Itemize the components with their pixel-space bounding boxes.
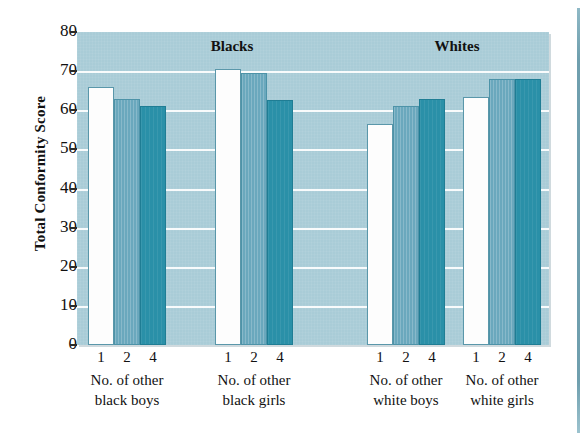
y-tick-mark [70,148,77,150]
bar [88,87,114,345]
panel-label-blacks: Blacks [172,38,292,55]
bar [241,73,267,345]
group-caption-line1: No. of other [437,370,567,390]
bar [367,124,393,345]
group-caption: No. of otherblack girls [189,370,319,410]
y-tick-mark [70,109,77,111]
group-caption: No. of otherwhite girls [437,370,567,410]
y-tick-label: 10 [15,295,77,315]
y-tick-label: 70 [15,60,77,80]
plot-area: BlacksWhites [77,32,549,345]
y-tick-label: 60 [15,99,77,119]
x-tick-label: 1 [463,349,489,366]
x-tick-label: 2 [393,349,419,366]
bar [140,106,166,345]
y-tick-label: 40 [15,178,77,198]
group-caption-line2: white girls [437,390,567,410]
panel-label-whites: Whites [397,38,517,55]
y-tick-label: 80 [15,21,77,41]
bar-chart-figure: Total Conformity Score 80706050403020100… [0,0,585,441]
page-margin-rule [577,8,580,433]
x-tick-label: 4 [515,349,541,366]
x-tick-label: 1 [367,349,393,366]
bar [515,79,541,345]
y-tick-mark [70,227,77,229]
y-tick-label: 50 [15,138,77,158]
bar [114,99,140,345]
x-tick-label: 4 [140,349,166,366]
bar [489,79,515,345]
gridline [77,71,549,73]
x-tick-label: 2 [489,349,515,366]
x-tick-label: 2 [114,349,140,366]
group-caption-line2: black boys [62,390,192,410]
bar [463,97,489,345]
y-tick-mark [70,31,77,33]
group-caption-line1: No. of other [189,370,319,390]
bar [419,99,445,345]
x-tick-label: 4 [419,349,445,366]
y-tick-mark [70,305,77,307]
x-tick-label: 1 [88,349,114,366]
y-tick-mark [70,266,77,268]
bar [215,69,241,345]
x-tick-label: 1 [215,349,241,366]
y-tick-label: 30 [15,217,77,237]
y-tick-mark [70,344,77,346]
bar [393,106,419,345]
x-tick-label: 4 [267,349,293,366]
group-caption-line2: black girls [189,390,319,410]
bar [267,100,293,345]
y-tick-label: 20 [15,256,77,276]
group-caption: No. of otherblack boys [62,370,192,410]
y-tick-label: 0 [15,334,77,354]
y-tick-mark [70,70,77,72]
group-caption-line1: No. of other [62,370,192,390]
y-tick-mark [70,188,77,190]
x-tick-label: 2 [241,349,267,366]
